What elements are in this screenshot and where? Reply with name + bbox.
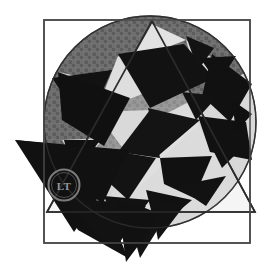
- artwork-canvas: LT: [0, 0, 275, 276]
- lt-monogram-text: LT: [57, 180, 72, 192]
- abstract-geometric-artwork: LT: [0, 0, 275, 276]
